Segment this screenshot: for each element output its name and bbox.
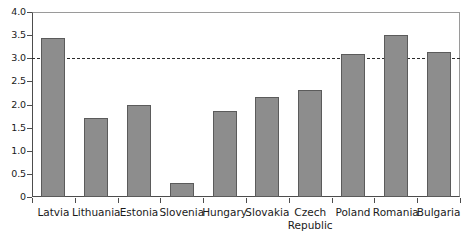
x-tick-mark xyxy=(118,198,119,203)
x-tick-mark xyxy=(75,198,76,203)
bar xyxy=(170,183,194,197)
bar xyxy=(255,97,279,197)
bar xyxy=(41,38,65,197)
bar xyxy=(341,54,365,197)
x-tick-label-line: Slovakia xyxy=(245,206,289,218)
x-tick-mark xyxy=(32,198,33,203)
y-tick-label: 0.5 xyxy=(0,168,32,180)
y-tick-label: 2.0 xyxy=(0,99,32,111)
y-tick-label: 1.5 xyxy=(0,122,32,134)
y-tick-label: 4.0 xyxy=(0,6,32,18)
y-tick-label: 1.0 xyxy=(0,145,32,157)
x-tick-label-line: Hungary xyxy=(202,206,247,218)
bar xyxy=(127,105,151,198)
x-tick-mark xyxy=(246,198,247,203)
y-tick-label: 3.5 xyxy=(0,29,32,41)
y-tick-label: 2.5 xyxy=(0,75,32,87)
x-tick-label-line: Slovenia xyxy=(159,206,204,218)
x-tick-label-line: Romania xyxy=(373,206,419,218)
x-tick-label-line: Latvia xyxy=(37,206,69,218)
x-tick-mark xyxy=(374,198,375,203)
x-tick-mark xyxy=(160,198,161,203)
y-tick-label: 3.0 xyxy=(0,52,32,64)
x-tick-mark xyxy=(417,198,418,203)
x-tick-label: Bulgaria xyxy=(413,206,464,219)
bar xyxy=(84,118,108,197)
bar xyxy=(427,52,451,197)
x-tick-label-line: Bulgaria xyxy=(417,206,461,218)
x-tick-label-line: Republic xyxy=(285,219,336,232)
x-tick-label-line: Czech xyxy=(294,206,326,218)
bar-chart: 00.51.01.52.02.53.03.54.0 LatviaLithuani… xyxy=(0,0,464,237)
x-tick-label-line: Poland xyxy=(335,206,370,218)
x-tick-mark xyxy=(332,198,333,203)
bar xyxy=(384,35,408,197)
x-tick-label-line: Estonia xyxy=(120,206,159,218)
bar xyxy=(213,111,237,197)
x-tick-mark xyxy=(289,198,290,203)
y-tick-label: 0 xyxy=(0,191,32,203)
bar xyxy=(298,90,322,197)
x-tick-mark xyxy=(460,198,461,203)
x-tick-mark xyxy=(203,198,204,203)
